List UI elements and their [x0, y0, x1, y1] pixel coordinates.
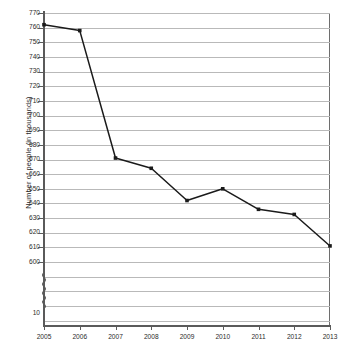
data-point-marker	[114, 156, 118, 160]
data-point-marker	[221, 187, 225, 191]
data-point-marker	[78, 29, 82, 33]
data-point-marker	[292, 213, 296, 217]
data-series-layer	[0, 0, 347, 354]
data-point-marker	[185, 199, 189, 203]
data-point-marker	[328, 244, 332, 248]
line-chart: Number of people (in thousands) 77076075…	[0, 0, 347, 354]
data-point-marker	[42, 23, 46, 27]
data-point-marker	[149, 166, 153, 170]
data-point-marker	[257, 208, 261, 212]
series-line	[44, 25, 330, 246]
